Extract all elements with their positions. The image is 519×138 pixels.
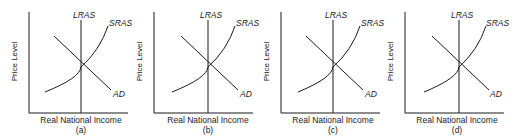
y-axis-label: Price Level	[262, 42, 271, 82]
ad-label: AD	[113, 89, 125, 99]
ad-label: AD	[365, 89, 377, 99]
panel-d: LRAS SRAS AD Price Level Real National I…	[390, 0, 519, 138]
y-axis-label: Price Level	[10, 42, 19, 82]
ad-label: AD	[240, 89, 252, 99]
x-axis-label: Real National Income	[278, 115, 388, 125]
sras-label: SRAS	[109, 18, 132, 28]
x-axis-label: Real National Income	[153, 115, 263, 125]
y-axis-label: Price Level	[135, 42, 144, 82]
lras-label: LRAS	[73, 10, 95, 20]
lras-label: LRAS	[200, 10, 222, 20]
y-axis-label: Price Level	[386, 42, 395, 82]
panel-b: LRAS SRAS AD Price Level Real National I…	[130, 0, 260, 138]
sras-label: SRAS	[236, 18, 259, 28]
lras-label: LRAS	[451, 10, 473, 20]
sras-label: SRAS	[486, 18, 509, 28]
panel-caption: (d)	[402, 125, 512, 135]
x-axis-label: Real National Income	[402, 115, 512, 125]
sras-label: SRAS	[361, 18, 384, 28]
x-axis-label: Real National Income	[26, 115, 136, 125]
panel-a: LRAS SRAS AD Price Level Real National I…	[0, 0, 130, 138]
ad-label: AD	[490, 89, 502, 99]
panel-caption: (c)	[278, 125, 388, 135]
panel-caption: (b)	[153, 125, 263, 135]
panel-c: LRAS SRAS AD Price Level Real National I…	[260, 0, 390, 138]
panel-caption: (a)	[26, 125, 136, 135]
lras-label: LRAS	[325, 10, 347, 20]
